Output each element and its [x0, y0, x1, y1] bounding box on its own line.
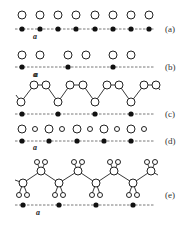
panel-label: (e) [165, 190, 175, 200]
lattice-constant-label: a [33, 143, 37, 152]
atoms-row [18, 11, 153, 19]
panel-e: a (e) [15, 160, 175, 218]
lattice-constant-label: a [36, 208, 40, 217]
panel-label: (d) [165, 136, 176, 146]
panel-a: a (a) [15, 11, 175, 41]
panel-b: a (b) [15, 51, 176, 79]
panel-c: a (c) [15, 70, 175, 119]
panel-label: (a) [165, 24, 175, 34]
panel-label: (b) [165, 62, 176, 72]
lattice-diagram: a (a) a (b) a (c) a (d) [0, 0, 186, 225]
lattice-constant-label: a [34, 70, 38, 79]
panel-d: a (d) [15, 125, 176, 152]
panel-label: (c) [165, 109, 175, 119]
lattice-constant-label: a [33, 32, 37, 41]
